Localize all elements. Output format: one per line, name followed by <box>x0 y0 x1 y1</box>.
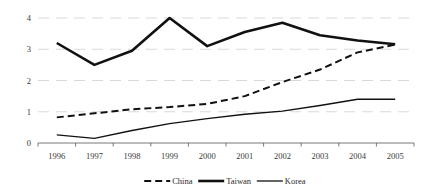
x-axis-tick-labels: 1996199719981999200020012002200320042005 <box>48 151 403 161</box>
series-line-china <box>57 45 395 118</box>
data-series-group <box>57 18 395 138</box>
chart-legend: ChinaTaiwanKorea <box>144 176 306 186</box>
line-chart: 01234 1996199719981999200020012002200320… <box>0 0 429 196</box>
legend-label-china: China <box>172 176 193 186</box>
y-tick-label-3: 3 <box>27 44 31 54</box>
chart-canvas: 01234 1996199719981999200020012002200320… <box>0 0 429 196</box>
x-tick-label-2003: 2003 <box>312 151 329 161</box>
x-axis-tick-marks <box>38 143 414 147</box>
x-tick-label-1999: 1999 <box>161 151 178 161</box>
y-axis-tick-labels: 01234 <box>27 13 32 148</box>
y-tick-label-4: 4 <box>27 13 32 23</box>
x-tick-label-2002: 2002 <box>274 151 291 161</box>
x-tick-label-1997: 1997 <box>86 151 103 161</box>
x-tick-label-2000: 2000 <box>199 151 216 161</box>
legend-label-taiwan: Taiwan <box>226 176 252 186</box>
series-line-taiwan <box>57 18 395 65</box>
x-tick-label-1996: 1996 <box>48 151 65 161</box>
x-tick-label-2005: 2005 <box>387 151 404 161</box>
y-tick-label-2: 2 <box>27 76 31 86</box>
x-tick-label-1998: 1998 <box>124 151 141 161</box>
series-line-korea <box>57 99 395 138</box>
y-tick-label-1: 1 <box>27 107 31 117</box>
legend-label-korea: Korea <box>285 176 306 186</box>
x-tick-label-2001: 2001 <box>236 151 253 161</box>
x-tick-label-2004: 2004 <box>349 151 367 161</box>
y-tick-label-0: 0 <box>27 138 31 148</box>
